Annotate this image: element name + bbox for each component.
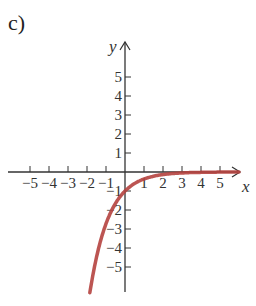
y-tick-label: 5: [115, 69, 123, 85]
x-tick-label: 3: [178, 175, 186, 191]
x-axis-label: x: [241, 177, 250, 196]
x-tick-label: −3: [60, 175, 76, 191]
x-tick-label: −4: [41, 175, 57, 191]
x-tick-label: 5: [216, 175, 224, 191]
x-tick-label: 4: [197, 175, 205, 191]
x-tick-label: −2: [79, 175, 95, 191]
y-tick-label: −4: [106, 240, 122, 256]
y-tick-label: 3: [115, 107, 123, 123]
y-axis-label: y: [107, 37, 117, 56]
x-tick-label: −5: [22, 175, 38, 191]
y-tick-label: −5: [106, 259, 122, 275]
y-tick-label: 2: [115, 126, 123, 142]
y-tick-label: −3: [106, 221, 122, 237]
x-tick-label: 2: [159, 175, 167, 191]
y-tick-label: 1: [115, 145, 123, 161]
function-graph: −5−4−3−2−112345−5−4−3−2−112345xy: [0, 0, 256, 306]
y-tick-label: 4: [115, 88, 123, 104]
